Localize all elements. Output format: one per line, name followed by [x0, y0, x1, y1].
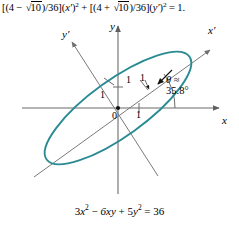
figure-page: [(4 − √10)/36](x′)2 + [(4 + √10)/36](y′)… — [0, 0, 239, 226]
radicand-2: 10 — [118, 1, 129, 13]
eq-join-plus: + [(4 — [79, 2, 104, 13]
ellipse-graph: y′ x′ y x 0 1 1 1 1 θ ≈ 35.8° — [0, 18, 239, 203]
bot-exp-3: 2 — [138, 203, 142, 212]
bot-equals: = — [144, 205, 150, 217]
bot-term-xy: 6xy — [101, 205, 116, 217]
origin-label: 0 — [112, 110, 117, 121]
eq-mid-1: )/36]( — [42, 2, 65, 13]
eq-var-x-prime: x′ — [65, 2, 72, 13]
y-axis-label: y — [110, 20, 115, 32]
bot-op-2: + — [119, 205, 125, 217]
graph-canvas — [0, 18, 239, 203]
original-conic-equation: 3x2 − 6xy + 5y2 = 36 — [0, 205, 239, 217]
square-root-icon: √10 — [22, 1, 42, 13]
bot-exp-1: 2 — [85, 203, 89, 212]
eq-open-bracket-1: [(4 — [2, 2, 16, 13]
rotated-conic-equation: [(4 − √10)/36](x′)2 + [(4 + √10)/36](y′)… — [2, 1, 185, 13]
x-prime-axis-line — [34, 50, 210, 177]
x-axis-label: x — [222, 114, 227, 126]
y-prime-unit-label: 1 — [100, 89, 105, 100]
radicand-1: 10 — [31, 1, 42, 13]
bot-op-1: − — [92, 205, 98, 217]
y-prime-axis-line — [72, 42, 158, 176]
y-prime-axis-label: y′ — [62, 28, 69, 40]
theta-value: 35.8° — [166, 85, 189, 96]
eq-mid-2: )/36]( — [129, 2, 152, 13]
x-prime-axis-label: x′ — [208, 24, 215, 36]
theta-angle-annotation: θ ≈ 35.8° — [166, 74, 189, 97]
bot-rhs: 36 — [153, 205, 164, 217]
y-axis-unit-label: 1 — [126, 74, 131, 85]
theta-symbol: θ — [166, 74, 171, 85]
x-prime-unit-label: 1 — [140, 72, 145, 83]
square-root-icon-2: √10 — [110, 1, 130, 13]
x-axis-unit-label: 1 — [136, 109, 141, 120]
eq-equals-1: = 1. — [166, 2, 185, 13]
approx-symbol: ≈ — [174, 74, 180, 85]
eq-var-y-prime: y′ — [153, 2, 160, 13]
